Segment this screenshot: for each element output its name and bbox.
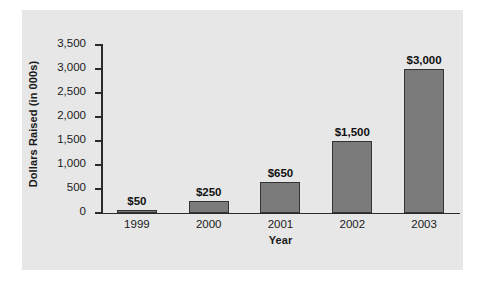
y-axis-tick-label: 3,000 bbox=[57, 61, 86, 73]
bar[interactable] bbox=[117, 210, 157, 213]
bar-group: $1,5002002 bbox=[316, 45, 388, 213]
y-axis-title: Dollars Raised (in 000s) bbox=[27, 44, 39, 204]
x-axis-tick-label: 2001 bbox=[268, 218, 294, 230]
x-axis-tick-label: 2000 bbox=[196, 218, 222, 230]
bar[interactable] bbox=[260, 182, 300, 213]
bar-group: $3,0002003 bbox=[388, 45, 460, 213]
y-axis-tick-label: 1,500 bbox=[57, 133, 86, 145]
bar-chart-figure: Dollars Raised (in 000s) 05001,0001,5002… bbox=[0, 0, 485, 283]
bar-group: $501999 bbox=[101, 45, 173, 213]
bar-value-label: $650 bbox=[268, 167, 294, 179]
y-axis-tick-label: 2,000 bbox=[57, 109, 86, 121]
bar-value-label: $3,000 bbox=[406, 54, 441, 66]
y-axis-tick-label: 2,500 bbox=[57, 85, 86, 97]
x-axis-tick-label: 2003 bbox=[411, 218, 437, 230]
bar-value-label: $50 bbox=[127, 195, 146, 207]
x-axis-tick-label: 1999 bbox=[124, 218, 150, 230]
y-axis-tick-label: 0 bbox=[80, 205, 86, 217]
bar[interactable] bbox=[189, 201, 229, 213]
y-axis-tick-label: 1,000 bbox=[57, 157, 86, 169]
plot-area: $501999$2502000$6502001$1,5002002$3,0002… bbox=[101, 45, 460, 213]
y-axis-tick-label: 500 bbox=[67, 181, 86, 193]
x-axis-title: Year bbox=[101, 234, 460, 246]
bar[interactable] bbox=[332, 141, 372, 213]
bar-group: $2502000 bbox=[173, 45, 245, 213]
y-axis-tick-label: 3,500 bbox=[57, 37, 86, 49]
x-axis-tick-label: 2002 bbox=[339, 218, 365, 230]
bar-value-label: $250 bbox=[196, 186, 222, 198]
bar-value-label: $1,500 bbox=[335, 126, 370, 138]
bar[interactable] bbox=[404, 69, 444, 213]
bar-group: $6502001 bbox=[245, 45, 317, 213]
